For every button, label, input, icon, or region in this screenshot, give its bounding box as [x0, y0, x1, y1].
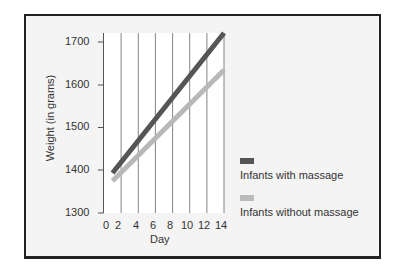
- y-tick-1300: 1300: [65, 206, 89, 218]
- y-tick-1400: 1400: [65, 163, 89, 175]
- x-tick-8: 8: [167, 219, 173, 231]
- legend-label-with-massage: Infants with massage: [240, 169, 343, 181]
- x-tick-14: 14: [215, 219, 227, 231]
- x-tick-10: 10: [181, 219, 193, 231]
- x-axis-label: Day: [150, 233, 170, 245]
- x-tick-0: 0: [103, 219, 109, 231]
- y-tick-1600: 1600: [65, 78, 89, 90]
- legend-swatch-with-massage: [240, 158, 254, 164]
- y-tick-1700: 1700: [65, 35, 89, 47]
- legend-swatch-without-massage: [240, 195, 254, 201]
- x-tick-12: 12: [198, 219, 210, 231]
- x-tick-4: 4: [133, 219, 139, 231]
- x-tick-2: 2: [115, 219, 121, 231]
- x-tick-6: 6: [150, 219, 156, 231]
- legend-label-without-massage: Infants without massage: [240, 206, 359, 218]
- y-axis-label: Weight (in grams): [44, 58, 56, 178]
- y-tick-1500: 1500: [65, 120, 89, 132]
